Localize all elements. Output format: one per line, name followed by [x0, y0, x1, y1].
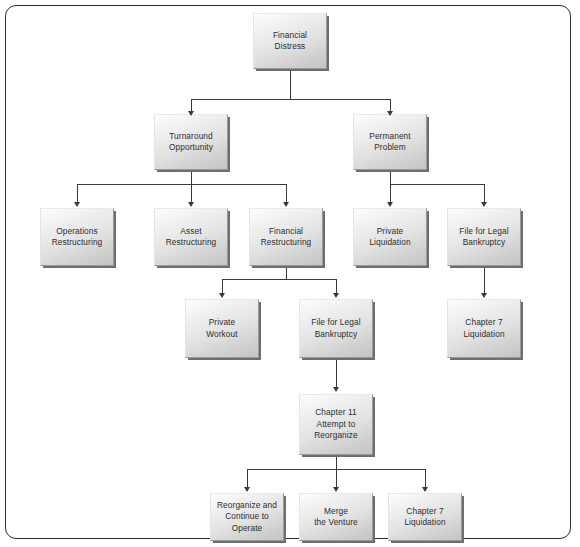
node-asset-restructuring[interactable]: Asset Restructuring: [154, 208, 228, 266]
connector-to-chapter11: [336, 358, 337, 390]
connector-to-operations: [77, 184, 78, 204]
node-private-liquidation[interactable]: Private Liquidation: [353, 208, 427, 266]
connector-financial-restructuring-stem: [286, 266, 287, 279]
arrow-to-financial-restructuring: [283, 202, 289, 207]
node-label: Chapter 7 Liquidation: [460, 317, 507, 340]
connector-to-reorganize: [247, 469, 248, 489]
node-operations-restructuring[interactable]: Operations Restructuring: [40, 208, 114, 266]
arrow-to-permanent: [387, 111, 393, 116]
arrow-to-private-liquidation: [387, 202, 393, 207]
connector-to-file-bankruptcy-right: [484, 184, 485, 204]
node-label: Merge the Venture: [311, 506, 361, 529]
node-chapter-7-liquidation-right[interactable]: Chapter 7 Liquidation: [447, 299, 521, 358]
connector-to-financial-restructuring: [286, 184, 287, 204]
arrow-to-file-bankruptcy-center: [333, 293, 339, 298]
node-label: Asset Restructuring: [163, 226, 220, 249]
connector-financial-restructuring-bar: [222, 279, 336, 280]
node-file-for-legal-bankruptcy-right[interactable]: File for Legal Bankruptcy: [447, 208, 521, 266]
node-label: Private Liquidation: [366, 226, 413, 249]
connector-permanent-stem: [390, 170, 391, 184]
connector-permanent-bar: [390, 184, 484, 185]
connector-chapter11-stem: [336, 455, 337, 469]
connector-to-asset: [191, 184, 192, 204]
node-label: Turnaround Opportunity: [166, 131, 216, 154]
node-label: Financial Restructuring: [258, 226, 315, 249]
diagram-canvas: Financial Distress Turnaround Opportunit…: [0, 0, 580, 547]
connector-turnaround-stem: [191, 170, 192, 184]
arrow-to-chapter7-bottom: [422, 487, 428, 492]
node-file-for-legal-bankruptcy-center[interactable]: File for Legal Bankruptcy: [299, 299, 373, 358]
arrow-to-operations: [74, 202, 80, 207]
node-reorganize-and-continue-to-operate[interactable]: Reorganize and Continue to Operate: [210, 493, 284, 541]
arrow-to-chapter11: [333, 387, 339, 392]
connector-to-chapter7-bottom: [425, 469, 426, 489]
node-label: Permanent Problem: [366, 131, 414, 154]
arrow-to-asset: [188, 202, 194, 207]
node-chapter-7-liquidation-bottom[interactable]: Chapter 7 Liquidation: [388, 493, 462, 541]
arrow-to-file-bankruptcy-right: [481, 202, 487, 207]
connector-to-private-liquidation: [390, 184, 391, 204]
node-chapter-11-attempt-to-reorganize[interactable]: Chapter 11 Attempt to Reorganize: [299, 394, 373, 455]
node-financial-restructuring[interactable]: Financial Restructuring: [249, 208, 323, 266]
node-financial-distress[interactable]: Financial Distress: [253, 13, 327, 69]
diagram-frame: [5, 5, 571, 539]
arrow-to-chapter7-right: [481, 293, 487, 298]
arrow-to-turnaround: [188, 111, 194, 116]
arrow-to-merge: [333, 487, 339, 492]
node-label: Operations Restructuring: [49, 226, 106, 249]
node-label: Chapter 11 Attempt to Reorganize: [311, 407, 360, 441]
connector-turnaround-bar: [77, 184, 286, 185]
node-label: File for Legal Bankruptcy: [456, 226, 511, 249]
arrow-to-private-workout: [219, 293, 225, 298]
connector-to-chapter7-right: [484, 266, 485, 295]
node-label: File for Legal Bankruptcy: [308, 317, 363, 340]
node-label: Chapter 7 Liquidation: [401, 506, 448, 529]
arrow-to-reorganize: [244, 487, 250, 492]
node-label: Financial Distress: [270, 30, 310, 53]
connector-to-merge: [336, 469, 337, 489]
connector-distress-bar: [191, 99, 390, 100]
node-label: Private Workout: [203, 317, 240, 340]
node-merge-the-venture[interactable]: Merge the Venture: [299, 493, 373, 541]
connector-distress-stem: [290, 69, 291, 99]
node-label: Reorganize and Continue to Operate: [214, 500, 280, 534]
node-permanent-problem[interactable]: Permanent Problem: [353, 114, 427, 170]
node-turnaround-opportunity[interactable]: Turnaround Opportunity: [154, 114, 228, 170]
node-private-workout[interactable]: Private Workout: [185, 299, 259, 358]
